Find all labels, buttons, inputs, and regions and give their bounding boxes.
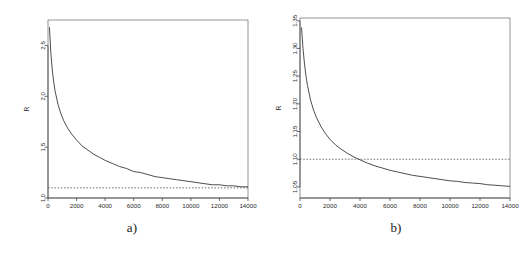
y-tick-label: 1.20 xyxy=(291,97,298,110)
x-tick-label: 14000 xyxy=(239,202,257,209)
y-tick-label: 1.10 xyxy=(291,153,298,166)
y-axis-title: R xyxy=(275,105,282,110)
x-tick-label: 4000 xyxy=(98,202,112,209)
x-tick-label: 12000 xyxy=(211,202,229,209)
y-tick-label: 1.15 xyxy=(291,125,298,138)
figure-container: 1.01.52.02.50200040006000800010000120001… xyxy=(0,0,528,254)
x-tick-label: 6000 xyxy=(127,202,141,209)
x-tick-label: 12000 xyxy=(471,202,489,209)
y-tick-label: 2.0 xyxy=(39,91,46,100)
x-tick-label: 8000 xyxy=(155,202,169,209)
y-tick-label: 1.0 xyxy=(39,193,46,202)
y-axis-title: R xyxy=(23,106,30,111)
plot-b-svg: 1.051.101.151.201.251.301.35020004000600… xyxy=(264,0,528,254)
panel-a: 1.01.52.02.50200040006000800010000120001… xyxy=(0,0,264,254)
plot-frame xyxy=(48,20,248,198)
plot-frame xyxy=(300,18,510,198)
y-tick-label: 1.05 xyxy=(291,180,298,193)
panel-b-caption: b) xyxy=(264,220,528,236)
y-tick-label: 1.30 xyxy=(291,42,298,55)
data-curve xyxy=(302,27,511,186)
y-tick-label: 1.5 xyxy=(39,142,46,151)
x-tick-label: 0 xyxy=(46,202,50,209)
x-tick-label: 2000 xyxy=(70,202,84,209)
x-tick-label: 14000 xyxy=(501,202,519,209)
panel-a-caption: a) xyxy=(0,220,264,236)
x-tick-label: 8000 xyxy=(413,202,427,209)
y-tick-label: 1.35 xyxy=(291,14,298,27)
data-curve xyxy=(49,27,248,187)
x-tick-label: 4000 xyxy=(353,202,367,209)
plot-a-svg: 1.01.52.02.50200040006000800010000120001… xyxy=(0,0,264,254)
y-tick-label: 2.5 xyxy=(39,41,46,50)
x-tick-label: 10000 xyxy=(182,202,200,209)
panel-b: 1.051.101.151.201.251.301.35020004000600… xyxy=(264,0,528,254)
x-tick-label: 2000 xyxy=(323,202,337,209)
x-tick-label: 0 xyxy=(298,202,302,209)
y-tick-label: 1.25 xyxy=(291,70,298,83)
x-tick-label: 6000 xyxy=(383,202,397,209)
x-tick-label: 10000 xyxy=(441,202,459,209)
